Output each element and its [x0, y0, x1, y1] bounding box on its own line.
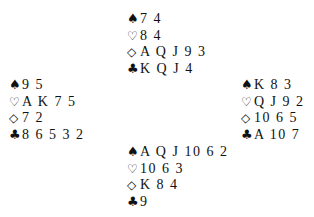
south-clubs: ♣ 9	[127, 194, 228, 211]
spade-icon: ♠	[9, 77, 22, 93]
east-clubs-cards: A 10 7	[254, 127, 300, 143]
west-spades: ♠ 9 5	[9, 77, 85, 94]
west-hearts-cards: A K 7 5	[22, 94, 76, 110]
west-clubs: ♣ 8 6 5 3 2	[9, 127, 85, 144]
club-icon: ♣	[241, 127, 254, 143]
diamond-icon: ◇	[241, 110, 254, 126]
east-spades-cards: K 8 3	[254, 77, 293, 93]
diamond-icon: ◇	[127, 44, 140, 60]
east-hand: ♠ K 8 3 ♡ Q J 9 2 ◇ 10 6 5 ♣ A 10 7	[241, 77, 305, 143]
south-clubs-cards: 9	[140, 194, 149, 210]
north-spades-cards: 7 4	[140, 11, 162, 27]
west-diamonds: ◇ 7 2	[9, 110, 85, 127]
south-spades: ♠ A Q J 10 6 2	[127, 144, 228, 161]
heart-icon: ♡	[127, 161, 140, 177]
north-clubs-cards: K Q J 4	[140, 61, 194, 77]
north-diamonds: ◇ A Q J 9 3	[127, 44, 206, 61]
east-hearts-cards: Q J 9 2	[254, 94, 305, 110]
spade-icon: ♠	[127, 144, 140, 160]
heart-icon: ♡	[9, 94, 22, 110]
east-diamonds-cards: 10 6 5	[254, 110, 298, 126]
spade-icon: ♠	[241, 77, 254, 93]
west-clubs-cards: 8 6 5 3 2	[22, 127, 85, 143]
south-diamonds: ◇ K 8 4	[127, 177, 228, 194]
heart-icon: ♡	[127, 28, 140, 44]
club-icon: ♣	[127, 61, 140, 77]
heart-icon: ♡	[241, 94, 254, 110]
west-hand: ♠ 9 5 ♡ A K 7 5 ◇ 7 2 ♣ 8 6 5 3 2	[9, 77, 85, 143]
east-hearts: ♡ Q J 9 2	[241, 94, 305, 111]
diamond-icon: ◇	[9, 110, 22, 126]
south-spades-cards: A Q J 10 6 2	[140, 144, 228, 160]
north-diamonds-cards: A Q J 9 3	[140, 44, 206, 60]
diamond-icon: ◇	[127, 177, 140, 193]
east-diamonds: ◇ 10 6 5	[241, 110, 305, 127]
club-icon: ♣	[9, 127, 22, 143]
west-hearts: ♡ A K 7 5	[9, 94, 85, 111]
west-spades-cards: 9 5	[22, 77, 44, 93]
north-clubs: ♣ K Q J 4	[127, 61, 206, 78]
south-diamonds-cards: K 8 4	[140, 177, 179, 193]
south-hand: ♠ A Q J 10 6 2 ♡ 10 6 3 ◇ K 8 4 ♣ 9	[127, 144, 228, 210]
west-diamonds-cards: 7 2	[22, 110, 44, 126]
north-hearts-cards: 8 4	[140, 28, 162, 44]
north-hearts: ♡ 8 4	[127, 28, 206, 45]
south-hearts: ♡ 10 6 3	[127, 161, 228, 178]
east-spades: ♠ K 8 3	[241, 77, 305, 94]
spade-icon: ♠	[127, 11, 140, 27]
south-hearts-cards: 10 6 3	[140, 161, 184, 177]
east-clubs: ♣ A 10 7	[241, 127, 305, 144]
north-hand: ♠ 7 4 ♡ 8 4 ◇ A Q J 9 3 ♣ K Q J 4	[127, 11, 206, 77]
north-spades: ♠ 7 4	[127, 11, 206, 28]
club-icon: ♣	[127, 194, 140, 210]
